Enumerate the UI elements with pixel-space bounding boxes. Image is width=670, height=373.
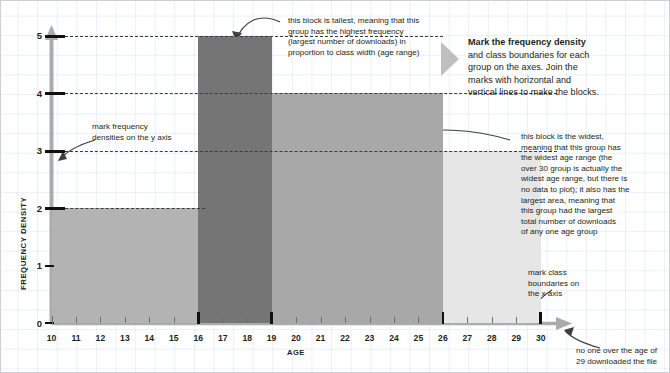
annotation-widest-line-8: this group had the largest — [521, 206, 663, 217]
x-tick-label-30: 30 — [531, 333, 551, 343]
annotation-boundaries-line-1: mark class — [528, 268, 618, 279]
x-tick-14 — [149, 317, 150, 323]
annotation-tallest-line-1: this block is tallest, meaning that this — [288, 16, 448, 27]
x-tick-26-boundary — [442, 312, 445, 324]
y-tick-0 — [45, 322, 54, 324]
annotation-no-one-line-1: no one over the age of — [576, 346, 670, 357]
x-tick-30-boundary — [539, 312, 542, 324]
annotation-mark-frequency-line-2: densities on the y axis — [92, 133, 222, 144]
x-tick-label-11: 11 — [66, 333, 86, 343]
annotation-tallest-line-3: (largest number of downloads) in — [288, 37, 448, 48]
y-tick-4 — [45, 92, 65, 95]
x-tick-label-24: 24 — [384, 333, 404, 343]
x-tick-label-25: 25 — [408, 333, 428, 343]
x-tick-label-18: 18 — [237, 333, 257, 343]
annotation-widest-line-3: the widest age range (the — [521, 153, 663, 164]
y-tick-label-1: 1 — [26, 260, 42, 271]
annotation-tallest-line-4: proportion to class width (age range) — [288, 48, 448, 59]
y-tick-label-5: 5 — [26, 30, 42, 41]
x-tick-10 — [52, 316, 53, 324]
x-tick-28 — [492, 317, 493, 323]
bar-19-26 — [272, 93, 443, 323]
annotation-no-one-over-29: no one over the age of 29 downloaded the… — [576, 346, 670, 367]
x-tick-label-29: 29 — [506, 333, 526, 343]
x-tick-label-27: 27 — [457, 333, 477, 343]
x-tick-label-21: 21 — [311, 333, 331, 343]
callout-instruction: Mark the frequency density and class bou… — [468, 36, 664, 99]
x-tick-label-28: 28 — [482, 333, 502, 343]
callout-line-1: and class boundaries for each — [468, 50, 589, 60]
annotation-widest-block: this block is the widest, meaning that t… — [521, 132, 663, 238]
annotation-tallest-line-2: group has the highest frequency — [288, 27, 448, 38]
x-tick-18 — [247, 317, 248, 323]
x-tick-29 — [516, 317, 517, 323]
x-tick-24 — [394, 317, 395, 323]
x-tick-20 — [296, 317, 297, 323]
x-tick-25 — [418, 317, 419, 323]
x-tick-11 — [76, 317, 77, 323]
annotation-widest-line-10: of any one age group — [521, 227, 663, 238]
y-tick-3 — [45, 150, 65, 153]
x-tick-12 — [100, 317, 101, 323]
annotation-widest-line-7: largest area, meaning that — [521, 196, 663, 207]
x-tick-15 — [174, 317, 175, 323]
x-tick-21 — [321, 317, 322, 323]
y-tick-1 — [45, 265, 54, 267]
annotation-widest-line-5: widest age range, but there is — [521, 174, 663, 185]
callout-lead: Mark the frequency density — [468, 36, 664, 49]
bar-16-19 — [198, 36, 271, 324]
x-tick-label-17: 17 — [213, 333, 233, 343]
bar-10-16 — [52, 208, 199, 323]
x-tick-27 — [467, 317, 468, 323]
x-tick-19-boundary — [270, 312, 273, 324]
histogram-chart: 5 4 3 2 1 0 FREQUENCY DENSITY 10 11 12 1… — [0, 0, 670, 373]
annotation-widest-line-1: this block is the widest, — [521, 132, 663, 143]
x-tick-17 — [223, 317, 224, 323]
x-tick-label-12: 12 — [90, 333, 110, 343]
x-tick-23 — [370, 317, 371, 323]
x-tick-label-22: 22 — [335, 333, 355, 343]
x-tick-label-13: 13 — [115, 333, 135, 343]
y-tick-label-0: 0 — [26, 318, 42, 329]
annotation-widest-line-4: over 30 group is actually the — [521, 164, 663, 175]
x-tick-label-16: 16 — [188, 333, 208, 343]
annotation-boundaries-line-2: boundaries on — [528, 279, 618, 290]
annotation-mark-class-boundaries: mark class boundaries on the x axis — [528, 268, 618, 300]
x-tick-22 — [345, 317, 346, 323]
x-tick-label-26: 26 — [433, 333, 453, 343]
annotation-mark-frequency: mark frequency densities on the y axis — [92, 122, 222, 143]
gridline-y-2 — [55, 208, 205, 209]
y-tick-label-4: 4 — [26, 88, 42, 99]
annotation-boundaries-line-3: the x axis — [528, 289, 618, 300]
x-tick-label-20: 20 — [286, 333, 306, 343]
y-tick-label-2: 2 — [26, 203, 42, 214]
x-tick-16-boundary — [197, 312, 200, 324]
x-axis-title: AGE — [287, 348, 305, 357]
x-tick-label-15: 15 — [164, 333, 184, 343]
y-tick-5 — [45, 35, 65, 38]
annotation-widest-line-9: total number of downloads — [521, 217, 663, 228]
x-tick-label-23: 23 — [360, 333, 380, 343]
y-tick-label-3: 3 — [26, 145, 42, 156]
annotation-no-one-line-2: 29 downloaded the file — [576, 357, 670, 368]
callout-line-3: marks with horizontal and — [468, 75, 571, 85]
x-tick-label-19: 19 — [262, 333, 282, 343]
annotation-mark-frequency-line-1: mark frequency — [92, 122, 222, 133]
y-tick-2 — [45, 207, 65, 210]
annotation-tallest-block: this block is tallest, meaning that this… — [288, 16, 448, 58]
callout-line-2: group on the axes. Join the — [468, 62, 578, 72]
gridline-y-3 — [55, 151, 557, 152]
x-tick-label-14: 14 — [139, 333, 159, 343]
y-axis-title: FREQUENCY DENSITY — [19, 197, 28, 290]
annotation-widest-line-6: no data to plot); it also has the — [521, 185, 663, 196]
x-tick-13 — [125, 317, 126, 323]
callout-line-4: vertical lines to make the blocks. — [468, 87, 599, 97]
annotation-widest-line-2: meaning that this group has — [521, 143, 663, 154]
x-tick-label-10: 10 — [42, 333, 62, 343]
